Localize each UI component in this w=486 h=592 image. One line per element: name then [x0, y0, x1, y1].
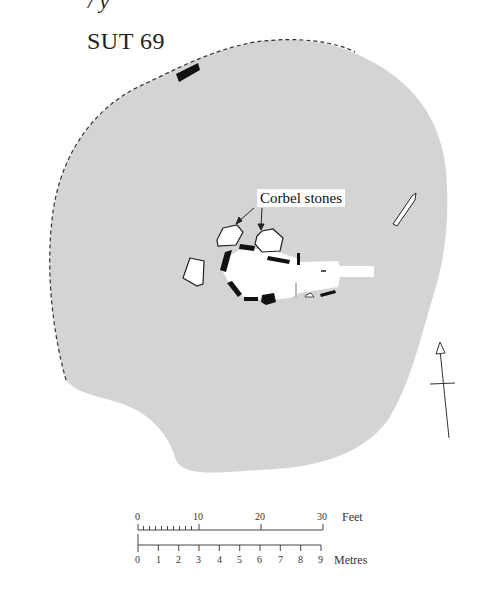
feet-tick-0: 0 — [135, 511, 140, 522]
metres-tick-6: 6 — [257, 554, 262, 565]
metres-tick-4: 4 — [217, 554, 222, 565]
metres-tick-5: 5 — [237, 554, 242, 565]
corbel-stones-label: Corbel stones — [257, 189, 345, 207]
metres-tick-9: 9 — [318, 554, 323, 565]
feet-unit-label: Feet — [342, 510, 363, 525]
metres-tick-1: 1 — [156, 554, 161, 565]
metres-tick-7: 7 — [278, 554, 283, 565]
metres-unit-label: Metres — [334, 553, 367, 568]
metres-tick-3: 3 — [196, 554, 201, 565]
site-title: SUT 69 — [87, 28, 165, 55]
metres-tick-8: 8 — [298, 554, 303, 565]
site-title-text: SUT 69 — [87, 28, 165, 54]
scale-bar-feet — [138, 524, 323, 530]
north-arrow-icon — [430, 342, 455, 438]
page-fragment-text: / y — [88, 0, 109, 14]
feet-tick-20: 20 — [255, 511, 265, 522]
metres-tick-2: 2 — [176, 554, 181, 565]
metres-tick-0: 0 — [135, 554, 140, 565]
feet-tick-30: 30 — [317, 511, 327, 522]
cairn-plan-drawing — [0, 0, 486, 592]
scale-bar-metres — [138, 534, 321, 552]
feet-tick-10: 10 — [193, 511, 203, 522]
